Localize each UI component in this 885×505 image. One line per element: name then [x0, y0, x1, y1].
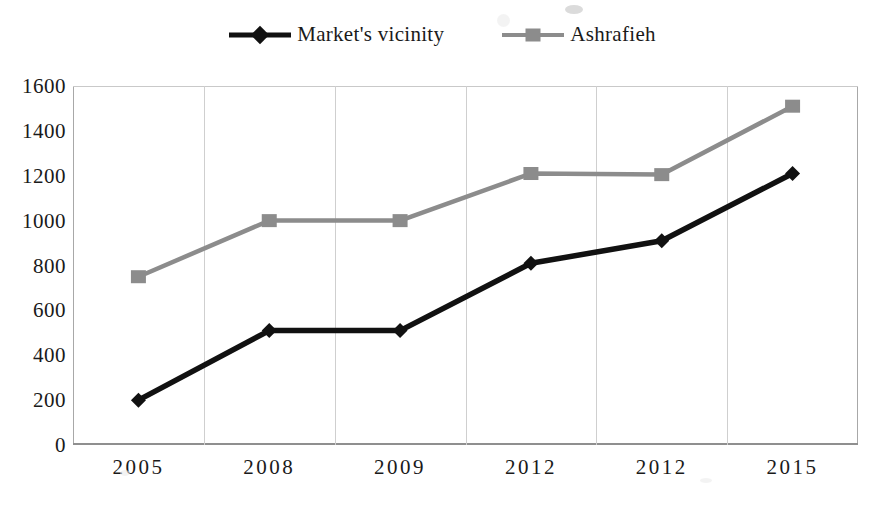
legend-label-markets-vicinity: Market's vicinity [297, 22, 444, 47]
y-axis-tick-label: 1400 [8, 118, 66, 143]
data-point-square [262, 214, 277, 227]
scan-artifact [497, 14, 510, 27]
y-axis-tick-label: 200 [8, 388, 66, 413]
square-marker-icon [502, 26, 564, 44]
line-chart-figure: Market's vicinity Ashrafieh 020040060080… [0, 0, 885, 505]
data-point-square [393, 214, 408, 227]
series-ashrafieh [131, 100, 800, 284]
legend-item-ashrafieh: Ashrafieh [502, 22, 656, 47]
diamond-marker-icon [229, 26, 291, 44]
x-axis-tick-label: 2015 [767, 455, 819, 480]
scan-artifact [700, 478, 712, 483]
plot-area [73, 86, 858, 445]
chart-legend: Market's vicinity Ashrafieh [0, 22, 885, 47]
y-axis-tick-label: 600 [8, 298, 66, 323]
x-axis-tick-label: 2008 [243, 455, 295, 480]
y-axis-tick-label: 1600 [8, 74, 66, 99]
legend-item-markets-vicinity: Market's vicinity [229, 22, 444, 47]
series-line [138, 174, 792, 401]
y-axis-tick-label: 800 [8, 253, 66, 278]
scan-artifact [120, 470, 130, 476]
y-axis-tick-label: 1200 [8, 163, 66, 188]
data-series-layer [73, 86, 858, 445]
x-axis-tick-label: 2005 [112, 455, 164, 480]
y-axis: 02004006008001000120014001600 [0, 0, 66, 505]
data-point-square [654, 168, 669, 181]
y-axis-tick-label: 400 [8, 343, 66, 368]
y-axis-tick-label: 0 [8, 433, 66, 458]
x-axis-tick-label: 2012 [505, 455, 557, 480]
data-point-square [785, 100, 800, 113]
x-axis-tick-label: 2012 [636, 455, 688, 480]
scan-artifact [565, 5, 583, 14]
x-axis-tick-label: 2009 [374, 455, 426, 480]
legend-label-ashrafieh: Ashrafieh [570, 22, 656, 47]
series-line [138, 106, 792, 277]
data-point-square [131, 270, 146, 283]
y-axis-tick-label: 1000 [8, 208, 66, 233]
data-point-square [523, 167, 538, 180]
series-markets-vicinity [131, 166, 800, 408]
